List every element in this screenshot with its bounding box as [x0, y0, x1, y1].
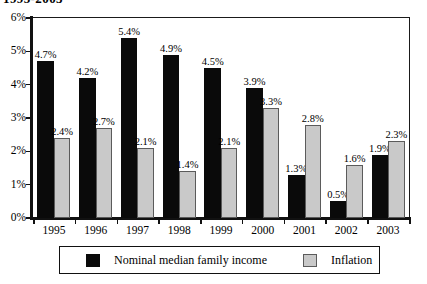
bar-1995-income	[37, 61, 54, 218]
bar-value-label-2002-inflation: 1.6%	[344, 153, 366, 164]
y-tick-label-3pct: 3%	[11, 112, 26, 123]
x-axis-category-labels: 199519961997199819992000200120022003	[33, 224, 409, 240]
x-axis-label-1998: 1998	[158, 224, 200, 237]
x-axis-label-1999: 1999	[200, 224, 242, 237]
y-tick-label-0pct: 0%	[11, 212, 26, 223]
bar-1996-inflation	[96, 128, 113, 218]
bar-value-label-1997-inflation: 2.1%	[135, 136, 157, 147]
y-tick-mark	[26, 51, 31, 53]
y-tick-label-2pct: 2%	[11, 145, 26, 156]
y-tick-label-1pct: 1%	[11, 179, 26, 190]
bar-group-1997: 5.4%2.1%	[117, 18, 159, 218]
bar-2003-income	[372, 155, 389, 218]
y-tick-label-6pct: 6%	[11, 12, 26, 23]
bar-2002-income	[330, 201, 347, 218]
bar-value-label-2003-inflation: 2.3%	[385, 129, 407, 140]
bar-1996-income	[79, 78, 96, 218]
x-axis-label-1997: 1997	[117, 224, 159, 237]
legend-entry-nominal-median-family-income: Nominal median family income	[86, 254, 267, 267]
bar-value-label-1998-income: 4.9%	[160, 43, 182, 54]
bar-group-2002: 0.5%1.6%	[325, 18, 367, 218]
bar-1998-inflation	[179, 171, 196, 218]
bar-group-2001: 1.3%2.8%	[284, 18, 326, 218]
bar-group-1995: 4.7%2.4%	[33, 18, 75, 218]
bar-2000-inflation	[263, 108, 280, 218]
bar-1995-inflation	[54, 138, 71, 218]
y-tick-mark	[26, 151, 31, 153]
legend-label-nominal-median-family-income: Nominal median family income	[114, 254, 267, 267]
bar-group-2003: 1.9%2.3%	[367, 18, 409, 218]
x-tick-mark	[409, 219, 411, 224]
x-axis-label-2002: 2002	[325, 224, 367, 237]
x-axis-label-1996: 1996	[75, 224, 117, 237]
bar-value-label-1996-income: 4.2%	[76, 66, 98, 77]
bar-2000-income	[246, 88, 263, 218]
y-tick-mark	[26, 17, 31, 19]
x-axis-label-2000: 2000	[242, 224, 284, 237]
y-tick-mark	[26, 84, 31, 86]
bar-2001-income	[288, 175, 305, 218]
x-axis-label-1995: 1995	[33, 224, 75, 237]
bar-value-label-2000-inflation: 3.3%	[260, 96, 282, 107]
y-tick-mark	[26, 117, 31, 119]
bar-group-1998: 4.9%1.4%	[158, 18, 200, 218]
y-tick-mark	[26, 184, 31, 186]
x-axis-label-2001: 2001	[284, 224, 326, 237]
x-axis-label-2003: 2003	[367, 224, 409, 237]
bar-2001-inflation	[305, 125, 322, 218]
y-tick-label-4pct: 4%	[11, 79, 26, 90]
chart-legend: Nominal median family income Inflation	[59, 246, 380, 274]
bar-1999-inflation	[221, 148, 238, 218]
legend-swatch-icon-gray	[303, 254, 317, 267]
bar-value-label-1998-inflation: 1.4%	[177, 159, 199, 170]
bar-value-label-1997-income: 5.4%	[118, 26, 140, 37]
bar-1997-income	[121, 38, 138, 218]
bar-group-1999: 4.5%2.1%	[200, 18, 242, 218]
bar-value-label-2000-income: 3.9%	[244, 76, 266, 87]
bar-1998-income	[163, 55, 180, 218]
legend-entry-inflation: Inflation	[303, 254, 372, 267]
bar-2002-inflation	[346, 165, 363, 218]
bar-2003-inflation	[388, 141, 405, 218]
bar-value-label-1995-inflation: 2.4%	[51, 126, 73, 137]
bar-value-label-1999-income: 4.5%	[202, 56, 224, 67]
bar-value-label-1995-income: 4.7%	[35, 49, 57, 60]
bar-value-label-2001-inflation: 2.8%	[302, 113, 324, 124]
y-tick-label-5pct: 5%	[11, 45, 26, 56]
bar-group-1996: 4.2%2.7%	[75, 18, 117, 218]
y-tick-mark	[26, 217, 31, 219]
bar-value-label-1996-inflation: 2.7%	[93, 116, 115, 127]
bar-group-2000: 3.9%3.3%	[242, 18, 284, 218]
bars-layer: 4.7%2.4%4.2%2.7%5.4%2.1%4.9%1.4%4.5%2.1%…	[33, 18, 409, 218]
bar-value-label-1999-inflation: 2.1%	[218, 136, 240, 147]
legend-label-inflation: Inflation	[331, 254, 372, 267]
legend-swatch-icon-black	[86, 254, 100, 267]
y-axis-tick-labels: 0%1%2%3%4%5%6%	[0, 0, 26, 284]
bar-1997-inflation	[137, 148, 154, 218]
